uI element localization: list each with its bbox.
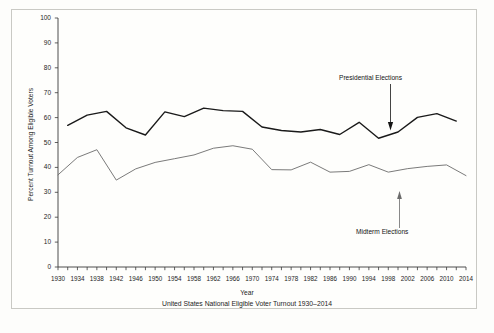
annotation-midterm-elections: Midterm Elections	[356, 228, 408, 235]
x-axis-title: Year	[0, 289, 494, 296]
y-tick-label: 90	[25, 39, 51, 46]
y-tick-label: 10	[25, 238, 51, 245]
y-tick-label: 0	[25, 263, 51, 270]
series-line-presidential	[68, 108, 457, 138]
chart-figure: 0102030405060708090100 19301934193819421…	[0, 0, 494, 333]
chart-caption: United States National Eligible Voter Tu…	[0, 300, 494, 307]
series-line-midterm	[58, 146, 466, 180]
x-tick-label: 2014	[454, 275, 478, 282]
y-axis-title: Percent Turnout Among Eligible Voters	[27, 65, 34, 225]
annotation-presidential-elections: Presidential Elections	[339, 74, 402, 81]
plot-area	[0, 0, 494, 333]
y-tick-label: 100	[25, 14, 51, 21]
